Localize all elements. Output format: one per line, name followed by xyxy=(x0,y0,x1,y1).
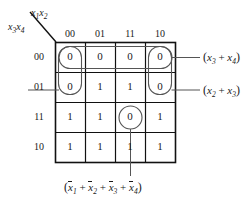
row-header-2: 11 xyxy=(24,112,54,122)
row-header-3: 10 xyxy=(24,142,54,152)
annotation-bottom-term0-sub: 1 xyxy=(73,187,77,196)
axis-label-rows-var2: x xyxy=(16,21,20,32)
column-header-2: 11 xyxy=(115,29,145,39)
annotation-middle-right-close-paren: ) xyxy=(236,83,240,97)
axis-label-columns-sub1: 1 xyxy=(35,12,39,21)
annotation-top-right-plus: + xyxy=(216,51,228,63)
annotation-bottom-plus-0: + xyxy=(77,181,89,193)
annotation-bottom-term2-var: x xyxy=(109,181,114,193)
row-header-0: 00 xyxy=(24,52,54,62)
annotation-bottom-plus-2: + xyxy=(117,181,129,193)
kmap-cell-r1-c1: 1 xyxy=(85,81,115,92)
axis-label-rows: x3x4 xyxy=(8,22,24,32)
axis-label-columns: x1x2 xyxy=(31,8,47,18)
column-header-3: 10 xyxy=(145,29,175,39)
annotation-middle-right-term0-sub: 2 xyxy=(212,90,216,99)
kmap-cell-r0-c3: 0 xyxy=(145,51,175,62)
annotation-bottom-close-paren: ) xyxy=(138,180,142,194)
annotation-middle-right-plus: + xyxy=(216,84,228,96)
annotation-top-right-term1-sub: 4 xyxy=(232,57,236,66)
kmap-cell-r3-c3: 1 xyxy=(145,141,175,152)
kmap-cell-r3-c2: 1 xyxy=(115,141,145,152)
kmap-cell-r0-c1: 0 xyxy=(85,51,115,62)
column-header-0: 00 xyxy=(55,29,85,39)
kmap-cell-r2-c3: 1 xyxy=(145,111,175,122)
annotation-top-right-close-paren: ) xyxy=(236,50,240,64)
annotation-middle-right-term1-sub: 3 xyxy=(232,90,236,99)
kmap-cell-r3-c0: 1 xyxy=(55,141,85,152)
annotation-bottom-plus-1: + xyxy=(97,181,109,193)
annotation-bottom-term1-sub: 2 xyxy=(93,187,97,196)
axis-label-columns-sub2: 2 xyxy=(44,12,48,21)
kmap-cell-r0-c2: 0 xyxy=(115,51,145,62)
kmap-cell-r2-c0: 1 xyxy=(55,111,85,122)
kmap-cell-r1-c3: 0 xyxy=(145,81,175,92)
annotation-bottom: (x1 + x2 + x3 + x4) xyxy=(64,181,142,193)
kmap-cell-r2-c1: 1 xyxy=(85,111,115,122)
kmap-cell-r2-c2: 0 xyxy=(115,111,145,122)
karnaugh-map-figure: x1x2 x3x4 00 01 11 10 00 01 11 10 0 0 0 … xyxy=(0,0,249,204)
kmap-cell-r1-c2: 1 xyxy=(115,81,145,92)
kmap-cell-r3-c1: 1 xyxy=(85,141,115,152)
axis-label-rows-sub1: 3 xyxy=(12,26,16,35)
annotation-middle-right: (x2 + x3) xyxy=(203,84,240,96)
annotation-bottom-term2: x xyxy=(109,182,114,193)
annotation-top-right-term0-sub: 3 xyxy=(212,57,216,66)
axis-label-columns-var2: x xyxy=(39,7,43,18)
annotation-bottom-term3-sub: 4 xyxy=(134,187,138,196)
column-header-1: 01 xyxy=(85,29,115,39)
row-header-1: 01 xyxy=(24,82,54,92)
annotation-top-right: (x3 + x4) xyxy=(203,51,240,63)
axis-label-rows-sub2: 4 xyxy=(21,26,25,35)
kmap-cell-r1-c0: 0 xyxy=(55,81,85,92)
annotation-bottom-term2-sub: 3 xyxy=(114,187,118,196)
kmap-cell-r0-c0: 0 xyxy=(55,51,85,62)
